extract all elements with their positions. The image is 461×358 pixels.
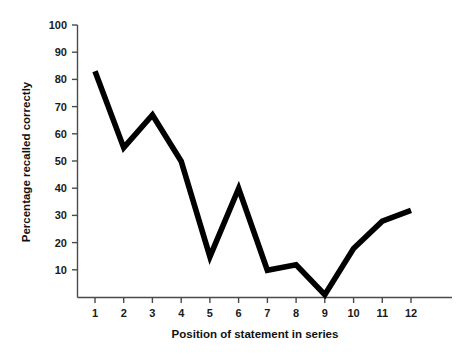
x-tick-label: 7 [264,307,270,319]
x-tick-label: 3 [149,307,155,319]
y-tick-label: 60 [55,128,67,140]
x-tick-label: 4 [178,307,185,319]
x-axis-title: Position of statement in series [172,328,339,340]
x-tick-label: 10 [347,307,359,319]
y-tick-label: 40 [55,182,67,194]
x-tick-label: 1 [92,307,98,319]
x-tick-label: 5 [207,307,213,319]
y-tick-label: 30 [55,209,67,221]
x-tick-label: 8 [293,307,299,319]
y-tick-label: 10 [55,264,67,276]
y-axis-title: Percentage recalled correctly [20,81,32,242]
y-tick-label: 20 [55,237,67,249]
y-tick-label: 50 [55,155,67,167]
chart-figure: 100 90 80 70 60 50 40 30 20 10 [0,0,461,358]
y-tick-label: 100 [49,19,67,31]
x-tick-label: 12 [405,307,417,319]
x-tick-label: 2 [121,307,127,319]
y-tick-label: 70 [55,101,67,113]
chart-background [0,0,461,358]
x-tick-label: 9 [322,307,328,319]
serial-position-line-chart: 100 90 80 70 60 50 40 30 20 10 [0,0,461,358]
x-tick-label: 6 [236,307,242,319]
y-tick-label: 80 [55,73,67,85]
x-tick-label: 11 [376,307,388,319]
y-tick-label: 90 [55,46,67,58]
